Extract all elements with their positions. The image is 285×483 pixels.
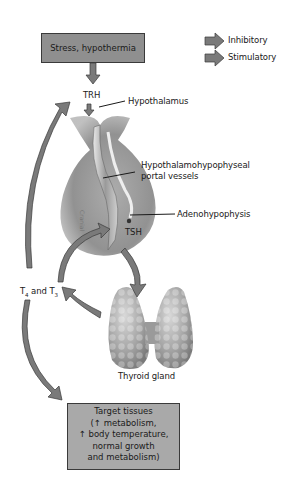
tsh-label: TSH — [125, 227, 142, 237]
arrow-stress-to-trh — [86, 63, 100, 84]
arrow-to-target-tissues — [22, 300, 62, 400]
arrow-trh-down — [84, 104, 94, 116]
target-line-5: and metabolism) — [68, 452, 179, 464]
adenohypophysis-label: Adenohypophysis — [177, 209, 250, 219]
t4-t3-label: T4 and T3 — [20, 286, 58, 300]
svg-text:Cranial: Cranial — [79, 210, 86, 231]
trh-label: TRH — [83, 90, 100, 100]
legend-arrow-stimulatory — [205, 50, 224, 66]
arrow-feedback-hypothalamus — [25, 102, 70, 268]
legend-stimulatory-label: Stimulatory — [228, 52, 276, 62]
stress-label: Stress, hypothermia — [50, 43, 136, 53]
portal-vessels-label-line2: portal vessels — [141, 171, 198, 181]
target-line-1: Target tissues — [68, 406, 179, 418]
legend-arrow-inhibitory — [205, 33, 224, 49]
arrow-thyroid-to-hormones — [62, 287, 101, 318]
portal-vessels-label-line1: Hypothalamohypophyseal — [141, 160, 250, 170]
hypothalamus-label: Hypothalamus — [128, 96, 188, 106]
legend-inhibitory-label: Inhibitory — [228, 35, 267, 45]
target-tissues-box: Target tissues (↑ metabolism, ↑ body tem… — [67, 403, 180, 470]
thyroid-gland-label: Thyroid gland — [118, 371, 175, 381]
stress-hypothermia-box: Stress, hypothermia — [41, 33, 145, 63]
target-line-3: ↑ body temperature, — [68, 429, 179, 441]
thyroid-gland-illustration — [108, 287, 193, 369]
target-line-4: normal growth — [68, 441, 179, 453]
target-line-2: (↑ metabolism, — [68, 418, 179, 430]
